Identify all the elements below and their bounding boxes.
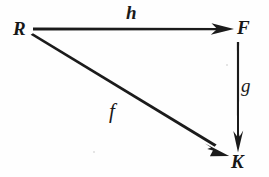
arrow-h-shaft xyxy=(33,28,222,31)
arrow-label-h: h xyxy=(126,3,137,22)
arrow-label-g: g xyxy=(241,76,251,95)
arrow-label-f: f xyxy=(109,101,115,122)
scan-speck xyxy=(93,151,95,153)
node-label-F: F xyxy=(237,18,250,37)
arrow-g-shaft xyxy=(237,42,239,139)
node-label-R: R xyxy=(13,19,26,38)
arrow-h-head xyxy=(211,23,234,34)
arrow-h xyxy=(33,23,234,34)
diagram-arrows-layer xyxy=(0,0,269,177)
arrow-f-shaft xyxy=(31,33,217,147)
scan-speck xyxy=(226,64,228,66)
arrow-g xyxy=(233,42,243,153)
arrow-f-head xyxy=(205,144,229,157)
arrow-g-head xyxy=(233,131,243,153)
node-label-K: K xyxy=(231,152,244,171)
arrow-f xyxy=(31,33,230,156)
commutative-diagram-canvas: R F K h g f xyxy=(0,0,269,177)
